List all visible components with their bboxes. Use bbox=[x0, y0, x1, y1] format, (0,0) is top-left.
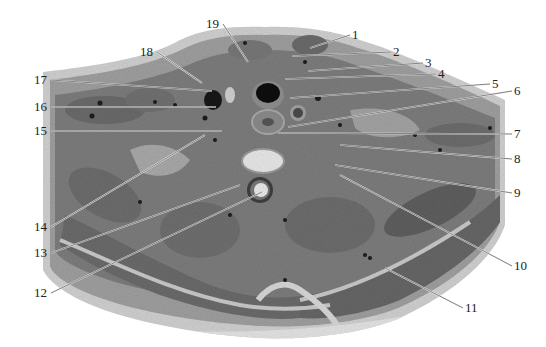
label-3: 3 bbox=[425, 56, 432, 69]
label-16: 16 bbox=[34, 100, 47, 113]
label-15: 15 bbox=[34, 124, 47, 137]
label-2: 2 bbox=[393, 45, 400, 58]
label-10: 10 bbox=[514, 259, 527, 272]
label-8: 8 bbox=[514, 152, 521, 165]
label-17: 17 bbox=[34, 73, 47, 86]
label-11: 11 bbox=[465, 301, 478, 314]
label-6: 6 bbox=[514, 84, 521, 97]
label-1: 1 bbox=[352, 28, 359, 41]
label-5: 5 bbox=[492, 77, 499, 90]
cross-section-figure bbox=[0, 0, 546, 347]
label-13: 13 bbox=[34, 246, 47, 259]
label-14: 14 bbox=[34, 220, 47, 233]
label-19: 19 bbox=[206, 17, 219, 30]
label-7: 7 bbox=[514, 127, 521, 140]
label-18: 18 bbox=[140, 45, 153, 58]
label-4: 4 bbox=[438, 67, 445, 80]
label-9: 9 bbox=[514, 186, 521, 199]
label-12: 12 bbox=[34, 286, 47, 299]
